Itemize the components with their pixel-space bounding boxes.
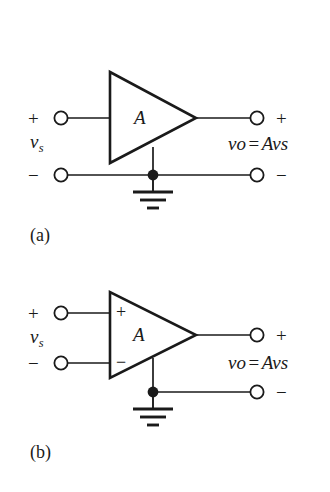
panel-a-output-minus-terminal — [250, 168, 263, 181]
panel-b-input-plus-terminal — [54, 306, 67, 319]
panel-a-output-plus-sign: + — [276, 109, 287, 128]
panel-a-input-plus-sign: + — [28, 109, 39, 128]
panel-b-input-plus-sign: + — [28, 304, 39, 323]
panel-a-caption: (a) — [30, 226, 50, 244]
panel-b-source-voltage-symbol: v — [30, 326, 38, 347]
panel-b-gain-label: A — [133, 325, 145, 344]
panel-b-equation-result-symbol: v — [272, 352, 280, 373]
panel-a-input-plus-terminal — [54, 111, 67, 124]
panel-a-output-subscript: o — [236, 133, 246, 154]
panel-b-equals-sign: = — [248, 352, 259, 373]
panel-a-source-voltage-subscript: s — [39, 141, 44, 155]
panel-b-caption: (b) — [30, 443, 51, 461]
figure-voltage-amplifier-models: + − vs A + − vo=Avs (a) + − vs + − A + −… — [0, 0, 330, 492]
panel-b-source-voltage-label: vs — [30, 327, 44, 349]
panel-b-noninverting-input-marking: + — [116, 303, 126, 321]
panel-b-source-voltage-subscript: s — [39, 336, 44, 350]
panel-b-output-equation: vo=Avs — [228, 353, 288, 372]
panel-b-output-plus-sign: + — [276, 326, 287, 345]
panel-a-output-plus-terminal — [250, 111, 263, 124]
panel-b-output-plus-terminal — [250, 328, 263, 341]
panel-a-output-minus-sign: − — [276, 166, 287, 185]
panel-b-inverting-input-marking: − — [116, 353, 126, 371]
panel-b-input-minus-terminal — [54, 356, 67, 369]
panel-a-input-minus-sign: − — [28, 166, 39, 185]
circuit-schematic-canvas — [0, 0, 330, 492]
panel-a-equation-result-symbol: v — [272, 133, 280, 154]
panel-b-equation-result-subscript: s — [281, 352, 288, 373]
panel-a-input-minus-terminal — [54, 168, 67, 181]
panel-a-output-equation: vo=Avs — [228, 134, 288, 153]
panel-a-equals-sign: = — [248, 133, 259, 154]
panel-b-output-minus-terminal — [250, 385, 263, 398]
panel-a-gain-label: A — [134, 108, 146, 127]
panel-a-source-voltage-symbol: v — [30, 131, 38, 152]
panel-a-equation-gain-term: A — [262, 133, 273, 154]
panel-b-output-subscript: o — [236, 352, 246, 373]
panel-a-equation-result-subscript: s — [281, 133, 288, 154]
panel-b-input-minus-sign: − — [28, 354, 39, 373]
panel-b-equation-gain-term: A — [262, 352, 273, 373]
panel-b-output-minus-sign: − — [276, 383, 287, 402]
panel-a-source-voltage-label: vs — [30, 132, 44, 154]
